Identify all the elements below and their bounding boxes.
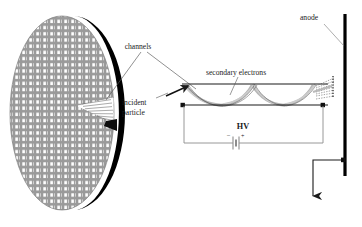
microchannel-plate bbox=[10, 16, 125, 210]
secondary-electrons-leader bbox=[230, 77, 238, 95]
anode-signal-lead bbox=[313, 160, 344, 196]
label-anode: anode bbox=[300, 13, 319, 22]
mcp-diagram-figure: channels bbox=[0, 0, 362, 227]
label-channels: channels bbox=[125, 42, 152, 51]
label-hv: HV bbox=[237, 122, 249, 131]
anode-leader bbox=[324, 24, 344, 46]
anode-bar bbox=[343, 14, 346, 176]
label-incident-particle-line1: incident bbox=[122, 98, 147, 107]
battery-plus-sign: + bbox=[241, 133, 245, 139]
label-incident-particle-line2: particle bbox=[122, 108, 145, 117]
incident-particle-arrow bbox=[166, 86, 188, 96]
label-secondary-electrons: secondary electrons bbox=[206, 68, 266, 77]
hv-bias-circuit bbox=[184, 106, 323, 143]
battery-minus-sign: – bbox=[226, 132, 231, 138]
diagram-canvas: channels bbox=[0, 0, 362, 227]
anode-lead-junction bbox=[341, 158, 346, 163]
single-channel-cross-section bbox=[181, 76, 335, 107]
